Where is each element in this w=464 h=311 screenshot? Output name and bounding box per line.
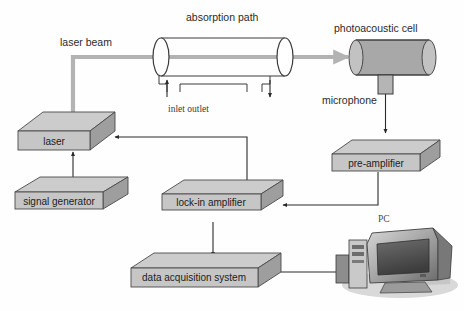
schematic-svg: laser signal generator lock-in amplifier…: [0, 0, 464, 311]
pc-workstation[interactable]: [336, 228, 458, 298]
label-inlet-outlet: inlet outlet: [168, 104, 209, 114]
label-laser-beam: laser beam: [60, 36, 112, 48]
microphone-unit: [378, 75, 393, 133]
label-absorption-path: absorption path: [186, 11, 259, 23]
component-label-lock-in-amplifier: lock-in amplifier: [176, 197, 246, 208]
component-label-laser: laser: [43, 136, 65, 147]
photoacoustic-cell: [349, 40, 436, 75]
label-pc: PC: [378, 214, 390, 224]
label-photoacoustic-cell: photoacoustic cell: [334, 22, 417, 34]
component-label-pre-amplifier: pre-amplifier: [348, 158, 404, 169]
component-laser[interactable]: laser: [18, 112, 115, 150]
component-pre-amplifier[interactable]: pre-amplifier: [332, 140, 440, 171]
component-lock-in-amplifier[interactable]: lock-in amplifier: [162, 180, 283, 210]
component-label-signal-generator: signal generator: [23, 196, 95, 207]
component-label-data-acquisition: data acquisition system: [142, 272, 246, 283]
label-microphone: microphone: [322, 94, 377, 106]
photoacoustic-setup-diagram: laser signal generator lock-in amplifier…: [0, 0, 464, 311]
component-signal-generator[interactable]: signal generator: [15, 177, 128, 209]
component-data-acquisition[interactable]: data acquisition system: [131, 253, 281, 287]
gas-inlet-outlet: [159, 76, 270, 97]
